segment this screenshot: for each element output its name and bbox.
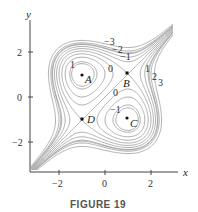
- x-tick-label: 2: [148, 178, 153, 189]
- contour-label: 0: [108, 63, 113, 74]
- y-tick-label: −2: [12, 137, 23, 148]
- contour-label: 3: [158, 77, 163, 88]
- point-d: [81, 118, 84, 121]
- x-tick-label: 0: [102, 178, 107, 189]
- x-tick-label: −2: [52, 178, 63, 189]
- contour-level: [27, 19, 179, 171]
- figure-caption: FIGURE 19: [70, 199, 126, 210]
- y-tick-label: 2: [17, 47, 22, 58]
- point-c-label: C: [130, 117, 138, 129]
- contour-label: 2: [152, 71, 157, 82]
- y-tick-label: 0: [17, 92, 22, 103]
- point-b-label: B: [123, 77, 130, 89]
- contour-label: −1: [110, 104, 121, 115]
- contour-label: 1: [70, 59, 75, 70]
- x-axis-label: x: [182, 166, 188, 178]
- contour-label: 0: [113, 87, 118, 98]
- point-d-label: D: [86, 113, 95, 125]
- contour-plot: y x 2 0 −2 −2 0 2 A B C D −3 −2 −1 1 2 3…: [0, 0, 198, 212]
- contour-label: −1: [120, 51, 131, 62]
- contour-label: 1: [145, 63, 150, 74]
- y-axis-label: y: [25, 8, 31, 20]
- point-a-label: A: [84, 73, 92, 85]
- point-b: [126, 72, 129, 75]
- point-c: [125, 116, 128, 119]
- point-a: [80, 73, 83, 76]
